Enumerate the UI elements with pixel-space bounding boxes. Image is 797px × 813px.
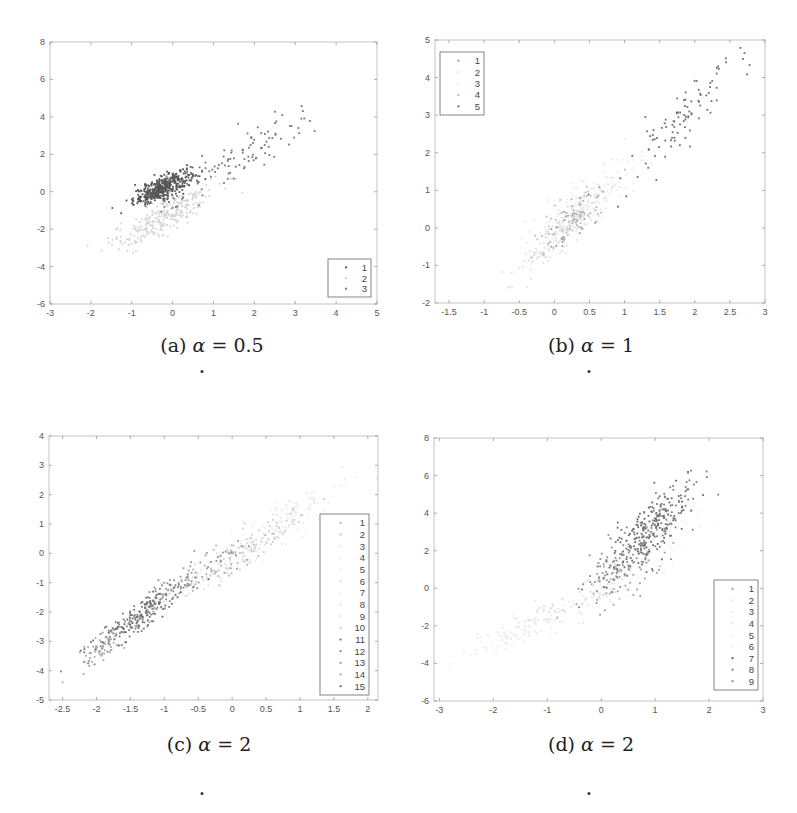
y-tick-label: -4 (421, 658, 429, 668)
y-tick-label: 8 (424, 433, 429, 443)
legend-marker (731, 646, 733, 648)
legend-label: 8 (749, 664, 754, 675)
legend-label: 1 (749, 583, 754, 594)
legend-marker (731, 622, 733, 624)
legend-marker (731, 611, 733, 613)
series-2 (477, 572, 665, 650)
caption-value: = 2 (594, 733, 634, 755)
caption-period (588, 792, 591, 795)
x-tick-label: -3 (435, 705, 443, 715)
x-tick-label: 3 (760, 705, 765, 715)
legend: 123456789 (714, 580, 758, 690)
y-tick-label: 0 (424, 583, 429, 593)
caption-alpha-symbol: α (581, 733, 594, 755)
y-tick-label: 6 (424, 471, 429, 481)
y-tick-label: -2 (421, 621, 429, 631)
caption-label: (d) (548, 733, 581, 755)
x-tick-label: -1 (543, 705, 551, 715)
legend-label: 5 (749, 630, 754, 641)
legend-label: 7 (749, 653, 754, 664)
legend-label: 9 (749, 676, 754, 687)
legend-marker (731, 680, 733, 682)
legend-marker (731, 669, 733, 671)
series-6 (616, 492, 703, 567)
x-tick-label: 0 (599, 705, 604, 715)
legend-marker (731, 599, 733, 601)
y-tick-label: 2 (424, 546, 429, 556)
x-tick-label: -2 (489, 705, 497, 715)
y-tick-label: 4 (424, 508, 429, 518)
legend-label: 2 (749, 595, 754, 606)
data-points (449, 470, 719, 665)
legend-marker (731, 657, 733, 659)
series-7 (581, 471, 704, 590)
legend-label: 3 (749, 606, 754, 617)
x-tick-label: 2 (707, 705, 712, 715)
y-tick-label: -6 (421, 696, 429, 706)
x-tick-label: 1 (653, 705, 658, 715)
y-axis: -6-4-202468 (421, 433, 763, 706)
legend-label: 6 (749, 641, 754, 652)
legend-marker (731, 634, 733, 636)
legend-marker (731, 588, 733, 590)
scatter-plot-d: -3-2-10123-6-4-202468123456789 (0, 0, 797, 813)
legend-label: 4 (749, 618, 754, 629)
subplot-caption: (d) α = 2 (548, 733, 634, 755)
